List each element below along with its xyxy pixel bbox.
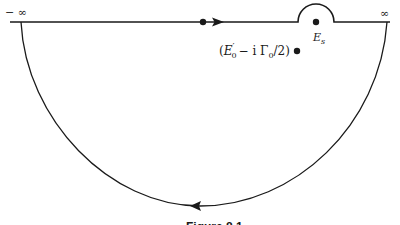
right-infinity-label: ∞: [380, 7, 389, 20]
singular-point-dot: [313, 19, 319, 25]
pole-tail: /2): [274, 44, 290, 58]
lower-semicircle-contour: [21, 22, 387, 206]
pole-minus-i-gamma: − i Γ: [239, 44, 269, 58]
pole-label: (E′0− i Γ0/2): [219, 42, 290, 60]
pole-energy-sub: 0: [232, 51, 237, 60]
singular-point-label: Es: [312, 31, 325, 46]
left-infinity-label: − ∞: [5, 6, 27, 19]
singular-point-letter: E: [312, 31, 321, 44]
axis-point-dot: [200, 19, 206, 25]
real-axis-contour: [10, 4, 390, 22]
figure-caption: Figure 8.1: [186, 220, 243, 225]
singular-point-subscript: s: [321, 37, 325, 46]
pole-dot: [294, 48, 300, 54]
contour-diagram: − ∞ ∞ Es (E′0− i Γ0/2) Figure 8.1: [0, 0, 400, 225]
